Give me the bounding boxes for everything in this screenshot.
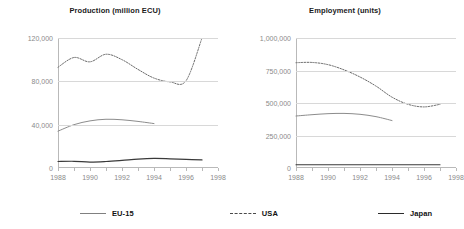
legend-line-icon-eu-15 (80, 210, 106, 217)
x-tick-label: 1992 (114, 174, 130, 181)
x-tick-mark (202, 168, 203, 171)
series-line-eu-15 (296, 113, 392, 120)
x-tick-label: 1996 (178, 174, 194, 181)
x-tick-mark (138, 168, 139, 171)
x-tick-mark (312, 168, 313, 171)
series-line-japan (58, 158, 202, 162)
legend-label-japan: Japan (410, 209, 432, 218)
gridline (58, 38, 218, 39)
legend-item-eu-15: EU-15 (80, 209, 134, 218)
x-tick-mark (392, 168, 393, 171)
gridline (58, 81, 218, 82)
y-tick-label: 0 (287, 165, 291, 172)
x-tick-mark (360, 168, 361, 171)
x-tick-label: 1996 (416, 174, 432, 181)
series-line-usa (58, 38, 202, 84)
x-tick-mark (58, 168, 59, 171)
legend-label-eu-15: EU-15 (112, 209, 134, 218)
y-tick-label: 0 (49, 165, 53, 172)
x-tick-mark (90, 168, 91, 171)
x-tick-label: 1990 (82, 174, 98, 181)
x-tick-mark (170, 168, 171, 171)
legend-label-usa: USA (262, 209, 278, 218)
y-tick-label: 500,000 (266, 100, 291, 107)
chart-title-production: Production (million ECU) (0, 6, 230, 15)
x-tick-mark (456, 168, 457, 171)
chart-panel-production: Production (million ECU) 040,00080,00012… (0, 0, 230, 196)
y-tick-label: 750,000 (266, 67, 291, 74)
gridline (296, 71, 456, 72)
series-line-usa (296, 62, 440, 107)
x-tick-mark (218, 168, 219, 171)
x-tick-mark (440, 168, 441, 171)
chart-panel-employment: Employment (units) 0250,000500,000750,00… (230, 0, 460, 196)
y-tick-label: 80,000 (32, 78, 53, 85)
x-tick-label: 1998 (448, 174, 464, 181)
legend-item-japan: Japan (378, 209, 432, 218)
x-tick-mark (74, 168, 75, 171)
legend-line-icon-usa (230, 210, 256, 217)
x-tick-mark (106, 168, 107, 171)
x-tick-label: 1992 (352, 174, 368, 181)
plot-area-production: 040,00080,000120,00019881990199219941996… (58, 38, 218, 168)
x-tick-mark (424, 168, 425, 171)
x-tick-mark (186, 168, 187, 171)
y-tick-label: 1,000,000 (260, 35, 291, 42)
chart-legend: EU-15 USA Japan (0, 198, 461, 229)
charts-row: Production (million ECU) 040,00080,00012… (0, 0, 461, 196)
gridline (296, 103, 456, 104)
plot-area-employment: 0250,000500,000750,0001,000,000198819901… (296, 38, 456, 168)
x-tick-label: 1990 (320, 174, 336, 181)
x-tick-mark (154, 168, 155, 171)
x-tick-label: 1988 (50, 174, 66, 181)
series-lines-production (58, 38, 218, 168)
x-tick-mark (122, 168, 123, 171)
x-tick-mark (344, 168, 345, 171)
x-tick-label: 1994 (384, 174, 400, 181)
x-tick-label: 1998 (210, 174, 226, 181)
legend-line-icon-japan (378, 210, 404, 217)
y-tick-label: 250,000 (266, 132, 291, 139)
x-tick-mark (328, 168, 329, 171)
x-tick-label: 1988 (288, 174, 304, 181)
legend-item-usa: USA (230, 209, 278, 218)
x-tick-mark (376, 168, 377, 171)
x-tick-mark (408, 168, 409, 171)
y-tick-label: 40,000 (32, 121, 53, 128)
chart-title-employment: Employment (units) (230, 6, 460, 15)
gridline (296, 38, 456, 39)
x-tick-label: 1994 (146, 174, 162, 181)
y-tick-label: 120,000 (28, 35, 53, 42)
gridline (296, 136, 456, 137)
gridline (58, 125, 218, 126)
x-tick-mark (296, 168, 297, 171)
